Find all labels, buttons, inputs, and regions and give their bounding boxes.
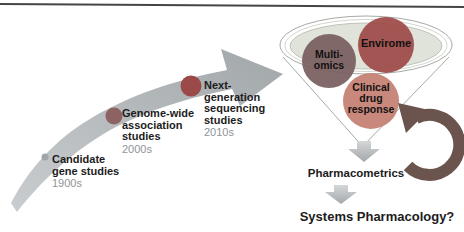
label-multi-omics: Multi- omics bbox=[289, 49, 369, 71]
label-line: studies bbox=[122, 131, 194, 143]
timeline-dot-2000s bbox=[106, 108, 123, 125]
label-line: gene studies bbox=[52, 166, 119, 178]
top-rule bbox=[0, 4, 464, 7]
label-line: response bbox=[331, 104, 411, 115]
label-line: Genome-wide bbox=[122, 108, 194, 120]
label-genome-wide-association-studies: Genome-wide association studies 2000s bbox=[122, 108, 194, 155]
label-line: sequencing bbox=[204, 103, 265, 115]
timeline-dot-2010s bbox=[181, 76, 202, 97]
label-next-generation-sequencing-studies: Next- generation sequencing studies 2010… bbox=[204, 80, 265, 139]
figure-evolution-of-genomic-studies: Candidate gene studies 1900s Genome-wide… bbox=[0, 0, 464, 232]
label-systems-pharmacology: Systems Pharmacology? bbox=[296, 209, 458, 224]
down-arrow-to-systems-pharmacology bbox=[325, 185, 357, 204]
down-arrow-to-pharmacometrics bbox=[348, 141, 380, 162]
era-2000s: 2000s bbox=[122, 144, 194, 156]
timeline-dot-1900s bbox=[42, 154, 49, 161]
label-line: Candidate bbox=[52, 154, 119, 166]
label-line: studies bbox=[204, 115, 265, 127]
feedback-loop-arrow bbox=[408, 115, 459, 175]
label-candidate-gene-studies: Candidate gene studies 1900s bbox=[52, 154, 119, 190]
label-line: Next- bbox=[204, 80, 265, 92]
era-2010s: 2010s bbox=[204, 127, 265, 139]
label-line: Envirome bbox=[346, 38, 426, 49]
label-clinical-drug-response: Clinical drug response bbox=[331, 82, 411, 115]
era-1900s: 1900s bbox=[52, 178, 119, 190]
label-envirome: Envirome bbox=[346, 38, 426, 49]
label-pharmacometrics: Pharmacometrics bbox=[286, 167, 426, 179]
label-line: omics bbox=[289, 60, 369, 71]
